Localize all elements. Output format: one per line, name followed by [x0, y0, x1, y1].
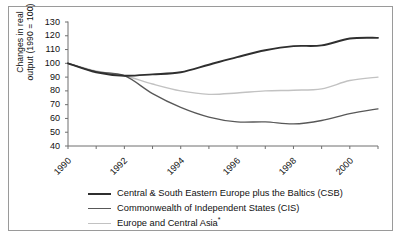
- series-line-eca: [68, 63, 378, 94]
- legend-swatch-line-icon: [88, 223, 111, 224]
- legend-label: Europe and Central Asia*: [117, 218, 221, 229]
- legend-item[interactable]: Central & South Eastern Europe plus the …: [88, 186, 388, 201]
- figure-container: Changes in real output (1990 = 100) 4050…: [0, 0, 403, 242]
- legend-item[interactable]: Commonwealth of Independent States (CIS): [88, 201, 388, 216]
- legend-swatch-line-icon: [88, 208, 111, 209]
- legend-label: Commonwealth of Independent States (CIS): [117, 203, 299, 214]
- legend-footnote-marker: *: [218, 216, 221, 223]
- series-line-csb: [68, 38, 378, 76]
- legend-label: Central & South Eastern Europe plus the …: [117, 188, 343, 199]
- legend-item[interactable]: Europe and Central Asia*: [88, 216, 388, 231]
- chart-legend: Central & South Eastern Europe plus the …: [88, 186, 388, 231]
- legend-swatch-line-icon: [88, 193, 111, 195]
